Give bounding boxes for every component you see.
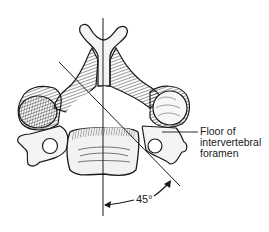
left-articular-process bbox=[18, 86, 61, 130]
vertebra-illustration bbox=[0, 0, 269, 232]
right-articular-process bbox=[150, 86, 189, 127]
label-line-3: foramen bbox=[200, 148, 261, 159]
angle-label: 45° bbox=[136, 193, 153, 205]
arrowhead-left-icon bbox=[104, 201, 111, 208]
foramen-label: Floor of intervertebral foramen bbox=[200, 126, 261, 159]
